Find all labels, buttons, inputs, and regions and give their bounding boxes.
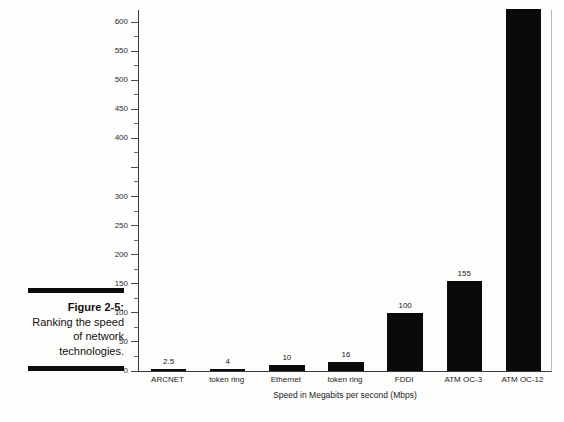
bar-value-label: 16 — [342, 350, 351, 360]
bar-chart: 050100150200250300400450500550600 2.5410… — [104, 10, 552, 410]
x-axis-label: token ring — [327, 374, 362, 386]
y-axis-tick-line — [131, 341, 138, 342]
bar: 100 — [387, 313, 422, 371]
bar-value-label: 4 — [225, 357, 229, 367]
y-axis-tick-label: 200 — [115, 249, 128, 260]
y-axis-tick-label: 100 — [115, 307, 128, 318]
x-axis-label: token ring — [209, 374, 244, 386]
bar: 4 — [210, 369, 245, 371]
y-axis: 050100150200250300400450500550600 — [104, 10, 138, 372]
x-axis-label: FDDI — [395, 374, 414, 386]
bar-value-label: 2.5 — [163, 357, 174, 367]
y-axis-tick-line — [131, 22, 138, 23]
x-axis-label: ATM OC-12 — [501, 374, 543, 386]
y-axis-tick-line — [131, 167, 138, 168]
y-axis-tick-label: 300 — [115, 191, 128, 202]
y-axis-tick-label: 450 — [115, 103, 128, 114]
plot-area: 2.541016100155 — [138, 10, 552, 372]
bar: 10 — [269, 365, 304, 371]
y-axis-tick-label: 250 — [115, 220, 128, 231]
y-axis-tick-line — [131, 51, 138, 52]
x-axis-label: Ethernet — [271, 374, 301, 386]
figure-page: Figure 2-5: Ranking the speed of network… — [0, 0, 564, 422]
y-axis-tick-line — [131, 371, 138, 372]
bar — [506, 9, 541, 371]
y-axis-tick-line — [131, 109, 138, 110]
bar: 16 — [328, 362, 363, 371]
x-axis-title: Speed in Megabits per second (Mbps) — [138, 390, 552, 400]
y-axis-tick-label: 0 — [124, 365, 128, 376]
bar-value-label: 155 — [458, 269, 471, 279]
y-axis-tick-line — [131, 283, 138, 284]
y-axis-tick-line — [131, 225, 138, 226]
x-axis-label: ARCNET — [151, 374, 184, 386]
y-axis-tick-label: 50 — [119, 336, 128, 347]
y-axis-tick-label: 400 — [115, 132, 128, 143]
bar-value-label: 100 — [398, 301, 411, 311]
y-axis-tick-label: 150 — [115, 278, 128, 289]
y-axis-tick-line — [131, 196, 138, 197]
bar-value-label: 10 — [282, 353, 291, 363]
y-axis-tick-label: 500 — [115, 74, 128, 85]
y-axis-tick-line — [131, 138, 138, 139]
x-axis-category-labels: ARCNETtoken ringEthernettoken ringFDDIAT… — [138, 374, 552, 390]
y-axis-tick-line — [131, 254, 138, 255]
y-axis-tick-label: 600 — [115, 16, 128, 27]
y-axis-tick-line — [131, 80, 138, 81]
x-axis-label: ATM OC-3 — [444, 374, 482, 386]
y-axis-tick-line — [131, 312, 138, 313]
bar: 2.5 — [151, 369, 186, 371]
y-axis-tick-label: 550 — [115, 45, 128, 56]
bar: 155 — [447, 281, 482, 371]
